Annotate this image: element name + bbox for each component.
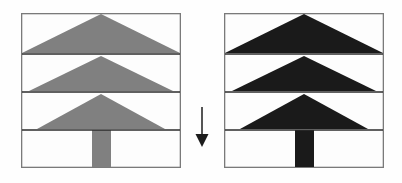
- darkened-tree-panel: [224, 13, 384, 168]
- darkened-tree-drawing: [224, 13, 384, 168]
- arrow-down-icon: [190, 105, 214, 150]
- trunk: [92, 130, 111, 167]
- trunk: [295, 130, 314, 167]
- arrow-head: [196, 134, 209, 147]
- transformation-arrow: [190, 105, 214, 150]
- original-tree-drawing: [21, 13, 181, 168]
- figure-canvas: [0, 0, 402, 183]
- original-tree-panel: [21, 13, 181, 168]
